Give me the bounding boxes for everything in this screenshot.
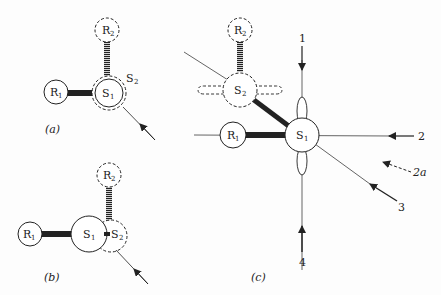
atom-r2-sub: 2	[110, 30, 114, 38]
atom-r1-sub: 1	[58, 92, 62, 100]
figure: R 2 R 1 S 1 S 2 (a) R 2 R 1 S 1 S 2	[0, 0, 441, 295]
bond-r1-s1	[246, 132, 286, 138]
arrow-3	[370, 184, 397, 201]
caption-c: (c)	[251, 271, 266, 284]
atom-s2-sub: 2	[134, 78, 138, 86]
panel-a: R 2 R 1 S 1 S 2 (a)	[44, 18, 155, 140]
bond-r1-s1	[40, 231, 74, 237]
atom-s2-label: S	[111, 228, 119, 241]
arrow-2a-label: 2a	[412, 166, 427, 179]
atom-r2-sub: 2	[111, 175, 115, 183]
arrow-2a	[383, 162, 411, 172]
arrow-1-label: 1	[299, 32, 306, 45]
atom-s2-label: S	[126, 72, 134, 85]
caption-a: (a)	[45, 123, 60, 136]
panel-c: R 2 S 2 R 1 S 1 1 2 2a 3 4 (c)	[184, 18, 427, 284]
atom-r1-sub: 1	[31, 234, 35, 242]
atom-r1-sub: 1	[235, 135, 239, 143]
atom-s2-label: S	[234, 84, 242, 97]
bond-s1-s2	[104, 232, 110, 236]
atom-s1-sub: 1	[304, 135, 308, 143]
arrow-4-label: 4	[299, 256, 306, 269]
bond-s2-s1	[254, 100, 290, 127]
lobe-s2-left	[198, 86, 226, 94]
line-diagonal	[315, 144, 370, 184]
atom-s1-sub: 1	[110, 93, 114, 101]
approach-arrow	[134, 269, 148, 284]
atom-s1-label: S	[296, 129, 304, 142]
bond-r2-s2	[106, 187, 112, 225]
lobe-s2-right	[254, 86, 282, 94]
panel-b: R 2 R 1 S 1 S 2 (b)	[18, 163, 148, 284]
atom-s1-label: S	[83, 228, 91, 241]
atom-s2-sub: 2	[242, 90, 246, 98]
atom-s1-label: S	[102, 87, 110, 100]
bond-r2-s2	[237, 40, 243, 72]
atom-s1-sub: 1	[91, 234, 95, 242]
arrow-2-label: 2	[418, 130, 425, 143]
arrow-3-label: 3	[398, 201, 405, 214]
approach-arrow	[140, 124, 155, 140]
caption-b: (b)	[44, 271, 60, 284]
atom-r2-sub: 2	[242, 30, 246, 38]
bond-r2-s1	[104, 40, 110, 76]
line-to-s2	[184, 52, 228, 80]
atom-s2-sub: 2	[119, 234, 123, 242]
diagram-canvas: R 2 R 1 S 1 S 2 (a) R 2 R 1 S 1 S 2	[0, 0, 441, 295]
